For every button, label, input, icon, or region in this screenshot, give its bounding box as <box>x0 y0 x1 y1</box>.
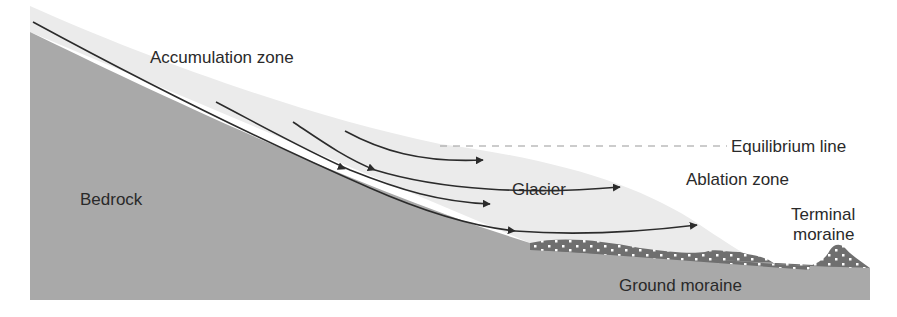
label-accumulation-zone: Accumulation zone <box>150 48 294 67</box>
glacier-diagram: Accumulation zone Equilibrium line Ablat… <box>0 0 897 317</box>
label-bedrock: Bedrock <box>80 190 143 209</box>
label-equilibrium-line: Equilibrium line <box>731 137 846 156</box>
label-ground-moraine: Ground moraine <box>619 276 742 295</box>
label-ablation-zone: Ablation zone <box>686 170 789 189</box>
label-terminal-moraine-2: moraine <box>793 225 854 244</box>
label-terminal-moraine-1: Terminal <box>791 205 855 224</box>
label-glacier: Glacier <box>512 180 566 199</box>
terminal-moraine-mound <box>810 245 870 268</box>
